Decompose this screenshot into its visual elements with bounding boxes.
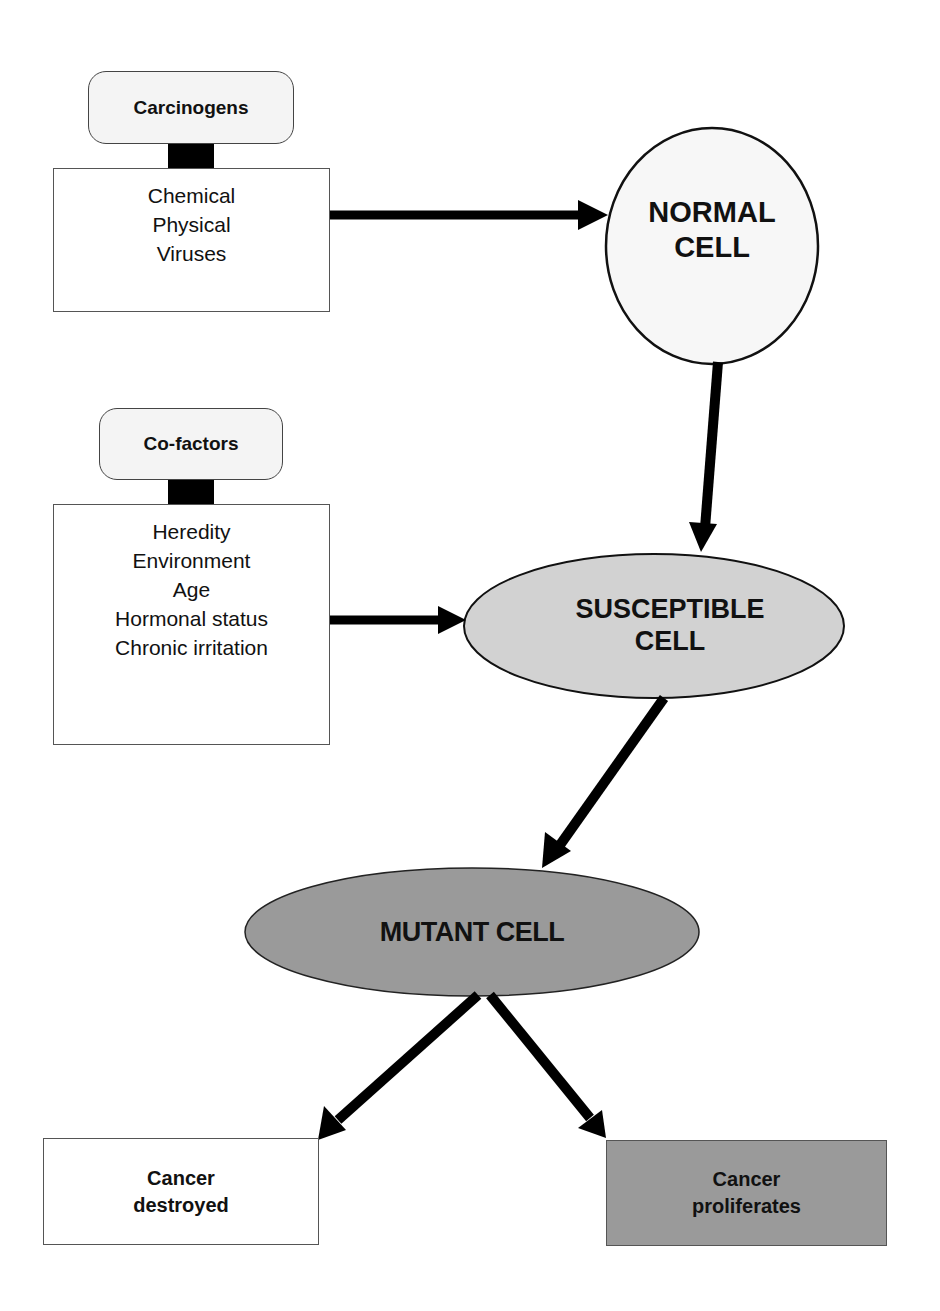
- arrow-mutant-to-destroyed-icon: [318, 995, 478, 1140]
- carcinogens-label: Carcinogens: [88, 71, 294, 144]
- susceptible-cell-label-line2: CELL: [635, 625, 706, 657]
- arrow-mutant-to-proliferates-icon: [490, 995, 606, 1138]
- cancer-destroyed-box: Cancer destroyed: [43, 1138, 319, 1245]
- susceptible-cell-label-line1: SUSCEPTIBLE: [575, 593, 764, 625]
- cofactor-item: Age: [54, 575, 329, 604]
- cancer-destroyed-line1: Cancer: [147, 1165, 215, 1192]
- arrow-carcinogens-to-normal-icon: [330, 200, 608, 230]
- carcinogen-item: Viruses: [54, 239, 329, 268]
- cancer-proliferates-line2: proliferates: [692, 1193, 801, 1220]
- cofactors-list-box: Heredity Environment Age Hormonal status…: [53, 504, 330, 745]
- carcinogen-item: Chemical: [54, 181, 329, 210]
- normal-cell-label-line2: CELL: [674, 230, 750, 265]
- cofactors-label: Co-factors: [99, 408, 283, 480]
- normal-cell-label-line1: NORMAL: [648, 195, 775, 230]
- arrow-susceptible-to-mutant-icon: [542, 698, 664, 868]
- cofactors-title: Co-factors: [143, 433, 238, 455]
- cofactors-connector: [168, 479, 214, 505]
- carcinogens-connector: [168, 143, 214, 169]
- cofactor-item: Hormonal status: [54, 604, 329, 633]
- carcinogen-item: Physical: [54, 210, 329, 239]
- cancer-destroyed-line2: destroyed: [133, 1192, 229, 1219]
- carcinogens-title: Carcinogens: [133, 97, 248, 119]
- cofactor-item: Heredity: [54, 517, 329, 546]
- cofactor-item: Environment: [54, 546, 329, 575]
- cancer-proliferates-line1: Cancer: [713, 1166, 781, 1193]
- carcinogens-list-box: Chemical Physical Viruses: [53, 168, 330, 312]
- cancer-proliferates-box: Cancer proliferates: [606, 1140, 887, 1246]
- arrow-normal-to-susceptible-icon: [689, 362, 718, 552]
- arrow-cofactors-to-susceptible-icon: [330, 606, 466, 634]
- cofactor-item: Chronic irritation: [54, 633, 329, 662]
- susceptible-cell-node: SUSCEPTIBLE CELL: [520, 588, 820, 662]
- mutant-cell-node: MUTANT CELL: [300, 912, 644, 952]
- mutant-cell-label: MUTANT CELL: [380, 916, 564, 948]
- normal-cell-node: NORMAL CELL: [606, 190, 818, 270]
